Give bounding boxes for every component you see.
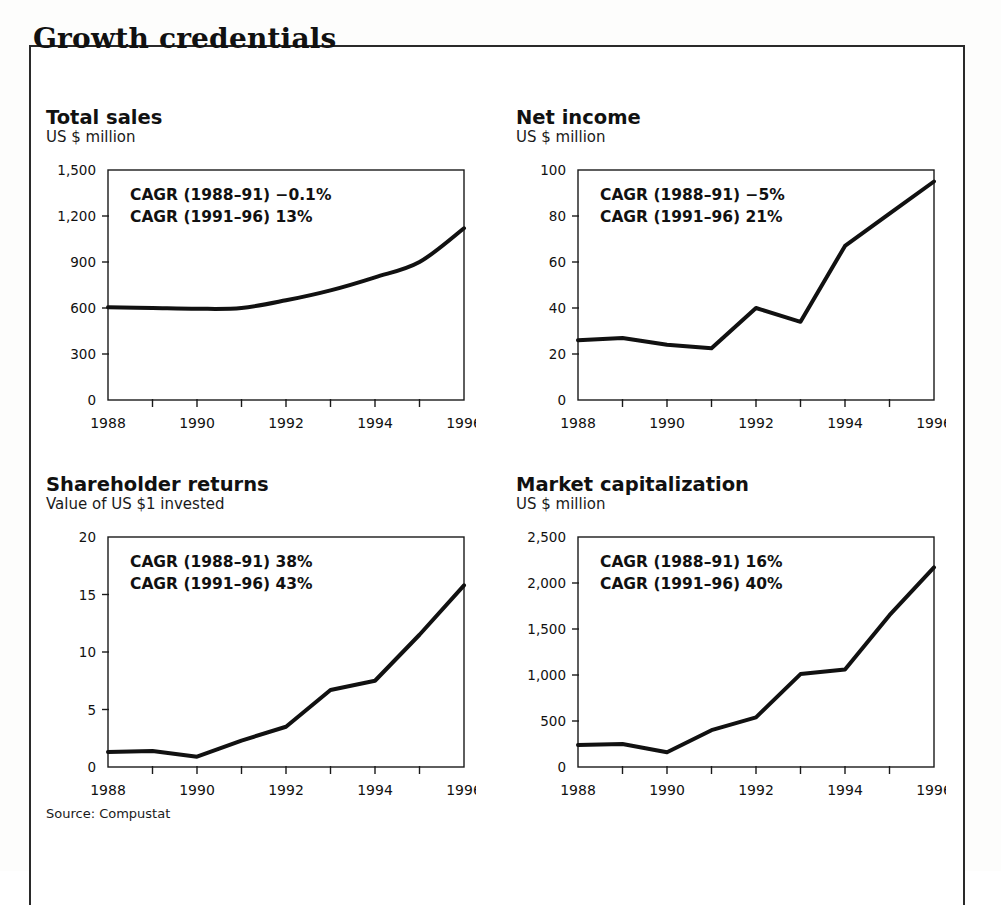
line-chart-shareholder-returns: 0510152019881990199219941996CAGR (1988–9… (46, 527, 476, 817)
y-axis-tick-label: 5 (87, 702, 96, 718)
y-axis-tick-label: 600 (70, 300, 96, 316)
plot-frame (108, 537, 464, 767)
x-axis-tick-label: 1992 (738, 782, 774, 798)
cagr-annotation: CAGR (1988–91) −5% (600, 186, 785, 204)
plot-area-total-sales: 03006009001,2001,50019881990199219941996… (46, 160, 476, 450)
chart-panel-net-income: Net income US $ million 0204060801001988… (516, 108, 946, 458)
y-axis-tick-label: 2,000 (527, 575, 566, 591)
x-axis-tick-label: 1992 (268, 782, 304, 798)
data-line-market_capitalization (578, 567, 934, 752)
line-chart-market-capitalization: 05001,0001,5002,0002,5001988199019921994… (516, 527, 946, 817)
y-axis-tick-label: 20 (79, 529, 96, 545)
cagr-annotation: CAGR (1988–91) −0.1% (130, 186, 332, 204)
plot-area-net-income: 02040608010019881990199219941996CAGR (19… (516, 160, 946, 450)
chart-title-net-income: Net income (516, 108, 946, 128)
plot-frame (578, 537, 934, 767)
x-axis-tick-label: 1990 (179, 415, 215, 431)
cagr-annotation: CAGR (1988–91) 16% (600, 553, 783, 571)
source-note: Source: Compustat (46, 806, 170, 821)
y-axis-tick-label: 1,500 (527, 621, 566, 637)
y-axis-tick-label: 40 (549, 300, 566, 316)
x-axis-tick-label: 1988 (560, 782, 596, 798)
y-axis-tick-label: 500 (540, 713, 566, 729)
y-axis-tick-label: 100 (540, 162, 566, 178)
x-axis-tick-label: 1994 (357, 415, 393, 431)
y-axis-tick-label: 60 (549, 254, 566, 270)
chart-title-shareholder-returns: Shareholder returns (46, 475, 476, 495)
data-line-total_sales (108, 228, 464, 309)
chart-title-total-sales: Total sales (46, 108, 476, 128)
x-axis-tick-label: 1994 (827, 782, 863, 798)
x-axis-tick-label: 1992 (268, 415, 304, 431)
chart-subtitle-net-income: US $ million (516, 130, 946, 146)
x-axis-tick-label: 1988 (90, 415, 126, 431)
chart-title-market-capitalization: Market capitalization (516, 475, 946, 495)
chart-subtitle-shareholder-returns: Value of US $1 invested (46, 497, 476, 513)
chart-panel-market-capitalization: Market capitalization US $ million 05001… (516, 475, 946, 825)
y-axis-tick-label: 20 (549, 346, 566, 362)
y-axis-tick-label: 1,000 (527, 667, 566, 683)
cagr-annotation: CAGR (1991–96) 13% (130, 208, 313, 226)
x-axis-tick-label: 1994 (827, 415, 863, 431)
y-axis-tick-label: 900 (70, 254, 96, 270)
chart-subtitle-total-sales: US $ million (46, 130, 476, 146)
y-axis-tick-label: 0 (87, 759, 96, 775)
y-axis-tick-label: 10 (79, 644, 96, 660)
cagr-annotation: CAGR (1991–96) 21% (600, 208, 783, 226)
plot-area-shareholder-returns: 0510152019881990199219941996CAGR (1988–9… (46, 527, 476, 817)
plot-frame (108, 170, 464, 400)
line-chart-total-sales: 03006009001,2001,50019881990199219941996… (46, 160, 476, 450)
x-axis-tick-label: 1992 (738, 415, 774, 431)
x-axis-tick-label: 1990 (649, 415, 685, 431)
x-axis-tick-label: 1996 (916, 415, 946, 431)
data-line-net_income (578, 182, 934, 349)
x-axis-tick-label: 1994 (357, 782, 393, 798)
x-axis-tick-label: 1996 (446, 782, 476, 798)
y-axis-tick-label: 0 (557, 392, 566, 408)
x-axis-tick-label: 1990 (179, 782, 215, 798)
chart-panel-total-sales: Total sales US $ million 03006009001,200… (46, 108, 476, 458)
y-axis-tick-label: 300 (70, 346, 96, 362)
line-chart-net-income: 02040608010019881990199219941996CAGR (19… (516, 160, 946, 450)
y-axis-tick-label: 0 (87, 392, 96, 408)
y-axis-tick-label: 15 (79, 587, 96, 603)
exhibit-title: Growth credentials (33, 22, 337, 55)
x-axis-tick-label: 1996 (446, 415, 476, 431)
y-axis-tick-label: 2,500 (527, 529, 566, 545)
x-axis-tick-label: 1990 (649, 782, 685, 798)
plot-area-market-capitalization: 05001,0001,5002,0002,5001988199019921994… (516, 527, 946, 817)
cagr-annotation: CAGR (1991–96) 40% (600, 575, 783, 593)
x-axis-tick-label: 1996 (916, 782, 946, 798)
x-axis-tick-label: 1988 (560, 415, 596, 431)
y-axis-tick-label: 1,500 (57, 162, 96, 178)
chart-subtitle-market-capitalization: US $ million (516, 497, 946, 513)
data-line-shareholder_returns (108, 585, 464, 756)
cagr-annotation: CAGR (1988–91) 38% (130, 553, 313, 571)
cagr-annotation: CAGR (1991–96) 43% (130, 575, 313, 593)
plot-frame (578, 170, 934, 400)
chart-panel-shareholder-returns: Shareholder returns Value of US $1 inves… (46, 475, 476, 825)
y-axis-tick-label: 1,200 (57, 208, 96, 224)
x-axis-tick-label: 1988 (90, 782, 126, 798)
y-axis-tick-label: 0 (557, 759, 566, 775)
y-axis-tick-label: 80 (549, 208, 566, 224)
